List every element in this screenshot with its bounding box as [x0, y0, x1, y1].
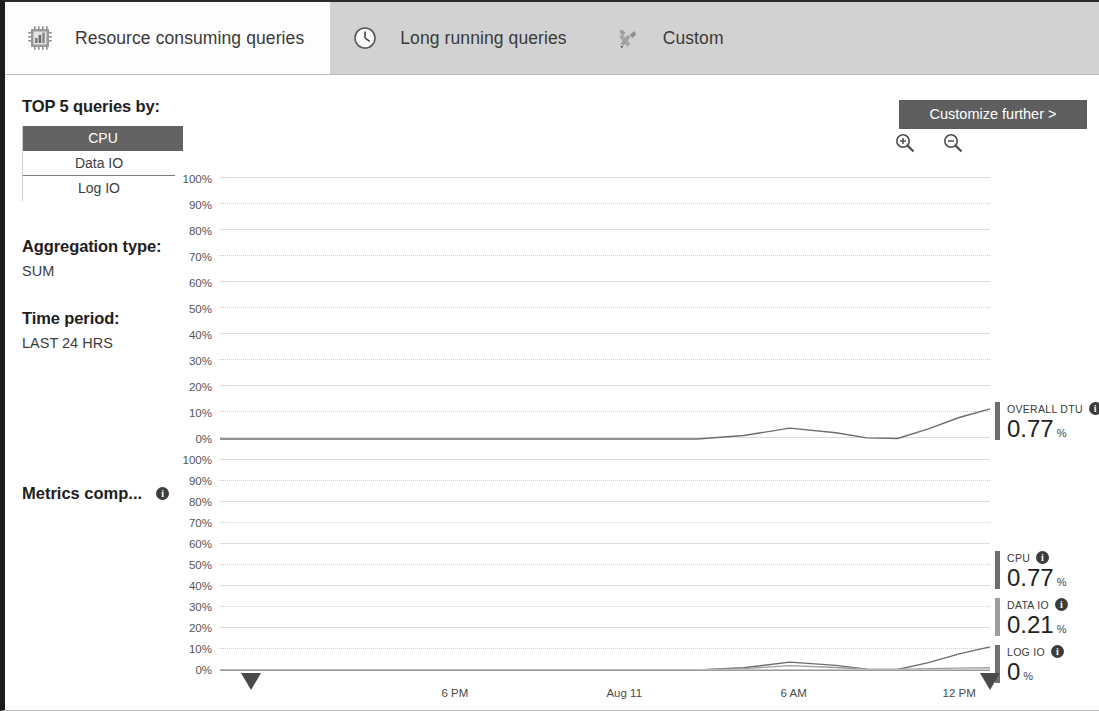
time-axis[interactable]: 6 PMAug 116 AM12 PM — [220, 670, 990, 671]
y-axis-tick: 30% — [189, 601, 212, 613]
tab-custom[interactable]: Custom — [593, 2, 750, 74]
metric-option-list: CPU Data IO Log IO — [22, 126, 212, 201]
gridline: 40% — [220, 565, 990, 586]
legend-value: 0.21 — [1007, 611, 1054, 638]
range-handle-left[interactable] — [241, 673, 261, 690]
legend-cpu[interactable]: CPU i 0.77% — [995, 551, 1067, 590]
y-axis-tick: 70% — [189, 517, 212, 529]
gridline: 80% — [220, 204, 990, 230]
metrics-comparison-chart[interactable]: 100%90%80%70%60%50%40%30%20%10%0% — [220, 439, 990, 670]
gridline: 80% — [220, 481, 990, 502]
gridline: 60% — [220, 256, 990, 282]
info-icon[interactable]: i — [1089, 402, 1099, 415]
tab-label: Custom — [663, 28, 724, 49]
y-axis-tick: 80% — [189, 225, 212, 237]
legend-unit: % — [1023, 670, 1033, 682]
time-period-value[interactable]: LAST 24 HRS — [22, 335, 212, 351]
metric-option-log-io[interactable]: Log IO — [23, 176, 175, 201]
legend-color-swatch — [995, 402, 1000, 440]
y-axis-tick: 70% — [189, 251, 212, 263]
gridline: 10% — [220, 386, 990, 412]
tools-icon — [615, 25, 641, 51]
tab-resource-consuming-queries[interactable]: Resource consuming queries — [5, 2, 330, 74]
gridline: 20% — [220, 360, 990, 386]
zoom-in-icon[interactable] — [894, 132, 916, 154]
legend-value: 0.77 — [1007, 564, 1054, 591]
gridline: 30% — [220, 334, 990, 360]
legend-value-row: 0% — [1007, 659, 1064, 684]
legend-value: 0 — [1007, 658, 1020, 685]
legend-color-swatch — [995, 598, 1000, 636]
y-axis-tick: 30% — [189, 355, 212, 367]
legend-data-io[interactable]: DATA IO i 0.21% — [995, 598, 1068, 637]
legend-label: CPU — [1007, 552, 1030, 564]
tab-label: Resource consuming queries — [75, 28, 304, 49]
info-icon[interactable]: i — [156, 487, 169, 500]
gridline: 0% — [220, 649, 990, 670]
legend-color-swatch — [995, 551, 1000, 589]
chip-chart-icon — [27, 25, 53, 51]
query-performance-insight-panel: Resource consuming queries Long running … — [0, 0, 1099, 711]
legend-value-row: 0.21% — [1007, 612, 1068, 637]
y-axis-tick: 50% — [189, 303, 212, 315]
gridline: 100% — [220, 439, 990, 460]
y-axis-tick: 60% — [189, 277, 212, 289]
y-axis-tick: 100% — [183, 454, 212, 466]
tab-long-running-queries[interactable]: Long running queries — [330, 2, 592, 74]
legend-unit: % — [1057, 576, 1067, 588]
sidebar: TOP 5 queries by: CPU Data IO Log IO Agg… — [22, 97, 212, 351]
legend-value: 0.77 — [1007, 415, 1054, 442]
metric-option-cpu[interactable]: CPU — [23, 126, 183, 151]
y-axis-tick: 0% — [195, 433, 212, 445]
gridline: 100% — [220, 152, 990, 178]
y-axis-tick: 20% — [189, 381, 212, 393]
info-icon[interactable]: i — [1055, 598, 1068, 611]
x-axis-tick: Aug 11 — [606, 687, 642, 699]
time-period-heading: Time period: — [22, 309, 212, 328]
y-axis-tick: 40% — [189, 329, 212, 341]
y-axis-tick: 50% — [189, 559, 212, 571]
x-axis-tick: 6 AM — [781, 687, 807, 699]
info-icon[interactable]: i — [1036, 551, 1049, 564]
x-axis-tick: 6 PM — [441, 687, 468, 699]
gridline: 40% — [220, 308, 990, 334]
legend-label: LOG IO — [1007, 646, 1045, 658]
aggregation-type-value[interactable]: SUM — [22, 263, 212, 279]
legend-label: OVERALL DTU — [1007, 403, 1083, 415]
gridline: 50% — [220, 544, 990, 565]
clock-icon — [352, 25, 378, 51]
gridline: 10% — [220, 628, 990, 649]
top-queries-heading: TOP 5 queries by: — [22, 97, 212, 116]
x-axis-tick: 12 PM — [943, 687, 976, 699]
gridline: 0% — [220, 412, 990, 438]
metric-option-data-io[interactable]: Data IO — [23, 151, 175, 176]
customize-further-button[interactable]: Customize further > — [899, 100, 1087, 129]
overall-dtu-chart[interactable]: 100%90%80%70%60%50%40%30%20%10%0% — [220, 152, 990, 439]
legend-overall-dtu[interactable]: OVERALL DTU i 0.77% — [995, 402, 1099, 441]
metrics-comparison-row: Metrics comp... i — [22, 484, 169, 503]
aggregation-type-heading: Aggregation type: — [22, 237, 212, 256]
legend-value-row: 0.77% — [1007, 565, 1067, 590]
y-axis-tick: 100% — [183, 173, 212, 185]
gridline: 70% — [220, 502, 990, 523]
y-axis-tick: 10% — [189, 643, 212, 655]
zoom-out-icon[interactable] — [942, 132, 964, 154]
legend-log-io[interactable]: LOG IO i 0% — [995, 645, 1064, 684]
tab-label: Long running queries — [400, 28, 566, 49]
legend-label: DATA IO — [1007, 599, 1049, 611]
y-axis-tick: 90% — [189, 199, 212, 211]
legend-unit: % — [1057, 427, 1067, 439]
charts-container: 100%90%80%70%60%50%40%30%20%10%0% 100%90… — [220, 152, 990, 670]
gridline: 20% — [220, 607, 990, 628]
legend-value-row: 0.77% — [1007, 416, 1099, 441]
legend-name-row: CPU i — [1007, 551, 1067, 564]
y-axis-tick: 90% — [189, 475, 212, 487]
legend-name-row: OVERALL DTU i — [1007, 402, 1099, 415]
range-handle-right[interactable] — [980, 673, 1000, 690]
legend-name-row: DATA IO i — [1007, 598, 1068, 611]
info-icon[interactable]: i — [1051, 645, 1064, 658]
y-axis-tick: 10% — [189, 407, 212, 419]
legend-unit: % — [1057, 623, 1067, 635]
y-axis-tick: 40% — [189, 580, 212, 592]
y-axis-tick: 20% — [189, 622, 212, 634]
